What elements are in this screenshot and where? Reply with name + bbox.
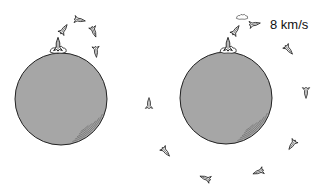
planet-left bbox=[15, 53, 107, 145]
rocket-icon bbox=[199, 173, 212, 184]
rocket-icon bbox=[302, 87, 309, 98]
rocket-icon bbox=[286, 138, 298, 151]
rocket-icon bbox=[89, 25, 100, 38]
exhaust-cloud-icon bbox=[236, 14, 247, 19]
rocket-icon bbox=[54, 37, 63, 51]
planet-right bbox=[180, 52, 272, 144]
rocket-icon bbox=[58, 23, 70, 36]
orbit-illustration: 8 km/s bbox=[0, 0, 325, 196]
rocket-icon bbox=[159, 145, 172, 158]
rocket-icon bbox=[145, 98, 152, 109]
rocket-icon bbox=[252, 167, 265, 178]
velocity-label: 8 km/s bbox=[270, 18, 308, 31]
rocket-icon bbox=[249, 20, 261, 29]
rocket-icon bbox=[92, 46, 100, 58]
rocket-icon bbox=[74, 15, 86, 24]
rocket-icon bbox=[224, 37, 233, 51]
rocket-icon bbox=[282, 43, 295, 56]
rocket-icon bbox=[230, 24, 242, 37]
